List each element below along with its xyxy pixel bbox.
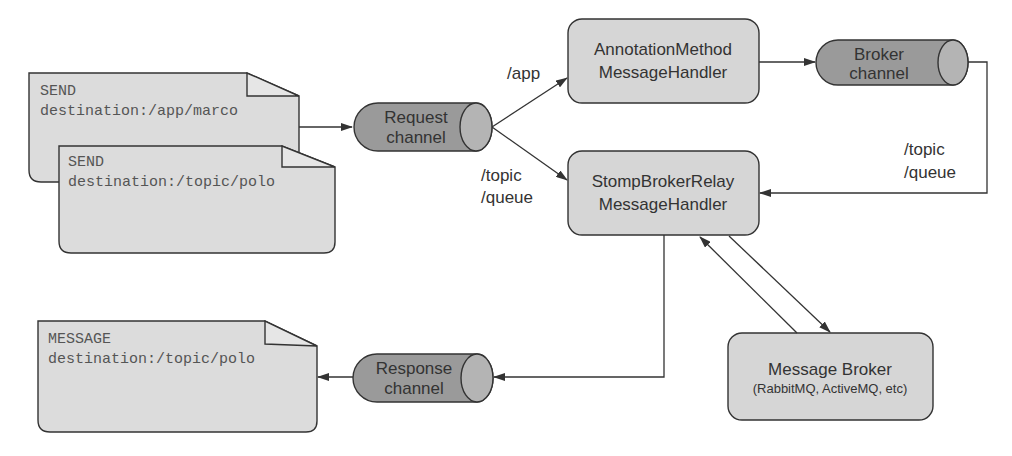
request-channel-label-line1: Request [384, 108, 448, 127]
message-out-destination: destination:/topic/polo [48, 351, 255, 368]
response-channel: Response channel [353, 354, 493, 402]
stomp-relay-label-line1: StompBrokerRelay [592, 172, 735, 191]
send-topic-destination: destination:/topic/polo [68, 174, 275, 191]
edge-label-queue-left: /queue [481, 188, 533, 207]
arrow-stomp-relay-to-response-channel [494, 235, 664, 377]
response-channel-label-line2: channel [384, 379, 444, 398]
message-broker-label: Message Broker [768, 360, 892, 379]
request-channel-label-line2: channel [386, 128, 446, 147]
message-broker: Message Broker (RabbitMQ, ActiveMQ, etc) [728, 333, 933, 420]
broker-channel: Broker channel [816, 40, 968, 85]
arrow-stomp-relay-to-broker [729, 236, 830, 332]
annotation-method-message-handler: AnnotationMethod MessageHandler [568, 19, 759, 103]
send-app-destination: destination:/app/marco [40, 103, 238, 120]
edge-label-topic-right: /topic [904, 140, 945, 159]
broker-channel-label-line2: channel [849, 64, 909, 83]
annotation-handler-label-line2: MessageHandler [599, 63, 728, 82]
request-channel: Request channel [354, 103, 492, 151]
broker-channel-label-line1: Broker [854, 45, 904, 64]
edge-label-topic-left: /topic [481, 166, 522, 185]
arrow-broker-to-stomp-relay [700, 237, 797, 333]
stomp-message-flow-diagram: SEND destination:/app/marco SEND destina… [0, 0, 1012, 456]
message-out-document: MESSAGE destination:/topic/polo [38, 321, 317, 432]
message-out-command: MESSAGE [48, 331, 111, 348]
send-topic-command: SEND [68, 154, 104, 171]
send-topic-document: SEND destination:/topic/polo [59, 146, 335, 253]
annotation-handler-label-line1: AnnotationMethod [594, 40, 732, 59]
edge-label-queue-right: /queue [904, 163, 956, 182]
edge-label-app: /app [507, 64, 540, 83]
message-broker-examples: (RabbitMQ, ActiveMQ, etc) [753, 381, 908, 396]
stomp-relay-label-line2: MessageHandler [599, 195, 728, 214]
response-channel-label-line1: Response [376, 359, 453, 378]
send-app-command: SEND [40, 83, 76, 100]
stomp-broker-relay-message-handler: StompBrokerRelay MessageHandler [568, 151, 759, 235]
arrow-request-to-annotation-handler [492, 78, 567, 127]
